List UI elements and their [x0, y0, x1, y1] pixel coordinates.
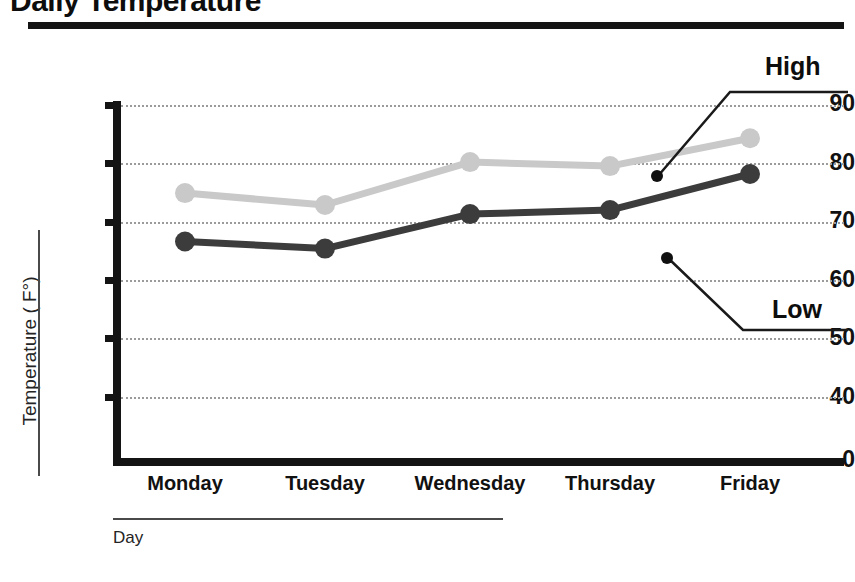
- callout-label-high: High: [765, 52, 821, 81]
- series-high-point-monday: [175, 183, 195, 203]
- callout-label-low: Low: [772, 295, 822, 324]
- series-low-point-tuesday: [315, 239, 335, 259]
- chart-page: Daily Temperature Temperature ( F°) 90 8…: [0, 0, 855, 582]
- x-axis-caption-rule: [113, 518, 503, 520]
- series-high-point-thursday: [600, 156, 620, 176]
- series-high-point-wednesday: [460, 152, 480, 172]
- x-axis-caption: Day: [113, 528, 143, 548]
- series-low-point-friday: [740, 164, 760, 184]
- series-high-point-tuesday: [315, 195, 335, 215]
- series-high-point-friday: [740, 128, 760, 148]
- x-tick-label-friday: Friday: [665, 472, 835, 495]
- series-low: [175, 164, 760, 259]
- series-low-point-thursday: [600, 200, 620, 220]
- series-low-point-wednesday: [460, 204, 480, 224]
- series-low-point-monday: [175, 232, 195, 252]
- series-high: [175, 128, 760, 215]
